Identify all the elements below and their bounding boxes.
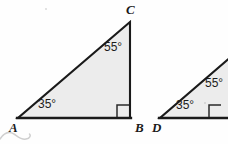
vertex-label-b: B (135, 121, 144, 134)
figure-canvas (0, 0, 228, 144)
angle-label-a-35: 35° (38, 98, 56, 110)
vertex-label-c: C (126, 3, 135, 16)
vertex-label-a: A (9, 121, 18, 134)
vertex-label-d: D (152, 121, 161, 134)
scan-speck-icon (45, 8, 47, 10)
angle-label-c-55: 55° (104, 41, 122, 53)
triangle-abc (17, 22, 131, 118)
angle-label-f-55: 55° (205, 77, 223, 89)
geometry-figure: A B C 35° 55° D 35° 55° (0, 0, 228, 144)
scan-speck-icon (204, 102, 206, 104)
triangle-abc-shape (18, 22, 130, 118)
angle-label-d-35: 35° (176, 99, 194, 111)
